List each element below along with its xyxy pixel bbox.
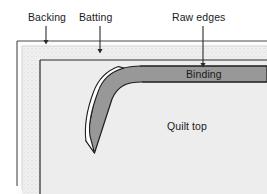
label-raw-edges: Raw edges [172,12,225,23]
label-backing: Backing [28,12,66,23]
label-quilt-top: Quilt top [167,121,207,132]
label-batting: Batting [79,12,112,23]
label-binding: Binding [186,69,222,80]
diagram-canvas [0,0,267,194]
quilt-binding-diagram: Backing Batting Raw edges Binding Quilt … [0,0,267,194]
